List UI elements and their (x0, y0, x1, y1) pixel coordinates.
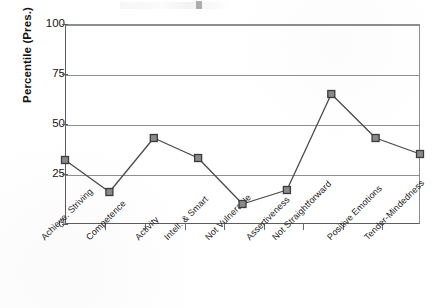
y-tick-label-100: 100 (31, 18, 65, 30)
gridline-25 (66, 175, 419, 176)
y-tick-label-50: 50 (31, 118, 65, 130)
gridline-100 (66, 25, 419, 26)
y-tick-label-75: 75 (31, 68, 65, 80)
gridline-50 (66, 125, 419, 126)
x-tick-mark-5 (303, 224, 304, 230)
y-tick-mark-100 (62, 24, 68, 25)
scan-artifact-dot (196, 1, 202, 9)
gridline-75 (66, 75, 419, 76)
scan-artifact (120, 2, 230, 9)
chart-root: Percentile (Pres.) 100 75 50 25 0 Achiev… (0, 0, 444, 308)
y-tick-label-25: 25 (31, 168, 65, 180)
y-tick-mark-75 (62, 74, 68, 75)
y-tick-mark-25 (62, 174, 68, 175)
y-tick-mark-50 (62, 124, 68, 125)
